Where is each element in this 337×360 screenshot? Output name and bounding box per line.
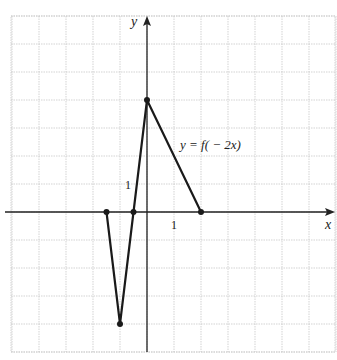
vertex-dot-icon [117, 321, 123, 327]
y-axis-label: y [129, 14, 138, 29]
function-label: y = f( − 2x) [178, 137, 241, 152]
vertex-dot-icon [131, 209, 137, 215]
x-unit-tick-label: 1 [171, 218, 177, 232]
x-axis-label: x [324, 217, 332, 232]
vertex-dot-icon [198, 209, 204, 215]
grid [11, 16, 336, 352]
coordinate-plane: x y 1 1 y = f( − 2x) [0, 0, 337, 360]
vertex-dot-icon [144, 97, 150, 103]
y-unit-tick-label: 1 [125, 178, 131, 192]
vertex-dot-icon [104, 209, 110, 215]
axes: x y 1 1 [5, 14, 335, 352]
